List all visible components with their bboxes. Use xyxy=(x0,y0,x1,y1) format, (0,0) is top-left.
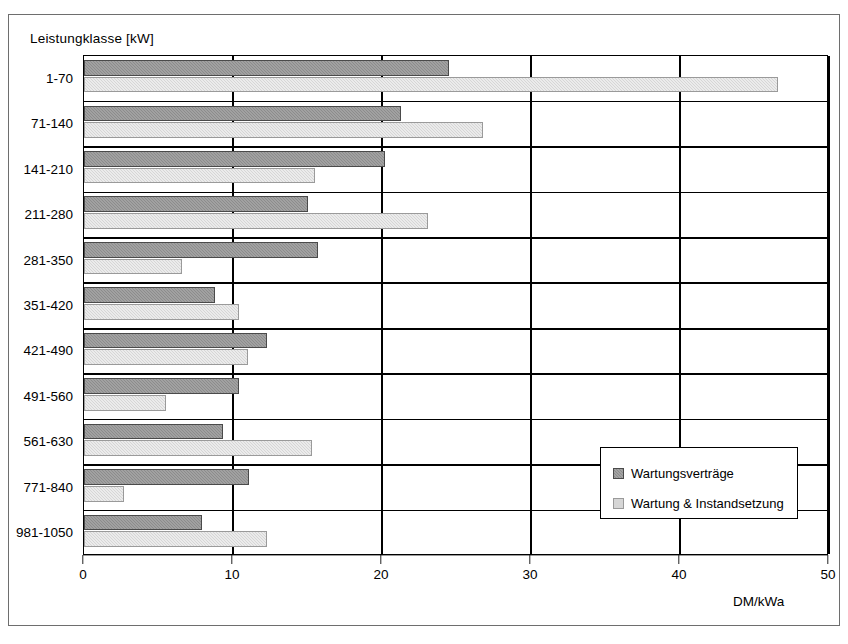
x-axis-unit-label: DM/kWa xyxy=(733,594,784,609)
legend-item-wartungsvertraege: Wartungsverträge xyxy=(613,458,797,488)
x-axis-tick-label: 10 xyxy=(224,567,239,582)
chart-figure: Leistungklasse [kW] 1-7071-140141-210211… xyxy=(0,0,848,644)
y-axis-tick-label: 351-420 xyxy=(23,298,73,313)
y-axis-tick-label: 561-630 xyxy=(23,434,73,449)
x-axis: 01020304050 xyxy=(83,555,828,556)
chart-row xyxy=(84,329,827,374)
bar-wartung-instandsetzung xyxy=(84,259,182,275)
bar-wartung-instandsetzung xyxy=(84,213,428,229)
chart-row xyxy=(84,238,827,283)
bar-wartungsvertraege xyxy=(84,424,223,440)
bar-wartung-instandsetzung xyxy=(84,440,312,456)
legend-swatch-light-icon xyxy=(613,498,624,509)
y-axis-tick-label: 491-560 xyxy=(23,388,73,403)
legend-item-wartung-instandsetzung: Wartung & Instandsetzung xyxy=(613,488,797,518)
x-axis-tick xyxy=(678,555,679,564)
bar-wartungsvertraege xyxy=(84,287,215,303)
chart-row xyxy=(84,147,827,192)
y-axis-tick-label: 981-1050 xyxy=(16,525,73,540)
bar-wartung-instandsetzung xyxy=(84,77,778,93)
y-axis-tick-label: 211-280 xyxy=(24,207,73,222)
y-axis-tick-label: 71-140 xyxy=(31,116,73,131)
y-axis-tick-label: 421-490 xyxy=(23,343,73,358)
bar-wartungsvertraege xyxy=(84,333,267,349)
bar-wartungsvertraege xyxy=(84,378,239,394)
legend-label: Wartung & Instandsetzung xyxy=(631,496,784,511)
legend-label: Wartungsverträge xyxy=(631,466,734,481)
bar-wartung-instandsetzung xyxy=(84,304,239,320)
bar-wartungsvertraege xyxy=(84,151,385,167)
bar-wartung-instandsetzung xyxy=(84,168,315,184)
x-axis-tick xyxy=(827,555,828,564)
bar-wartungsvertraege xyxy=(84,106,401,122)
bar-wartung-instandsetzung xyxy=(84,486,124,502)
bar-wartung-instandsetzung xyxy=(84,531,267,547)
x-axis-tick-label: 50 xyxy=(820,567,835,582)
x-axis-tick xyxy=(231,555,232,564)
x-axis-tick xyxy=(380,555,381,564)
bar-wartungsvertraege xyxy=(84,60,449,76)
gridline xyxy=(828,56,830,554)
chart-row xyxy=(84,56,827,101)
chart-row xyxy=(84,283,827,328)
chart-row xyxy=(84,192,827,237)
y-axis-tick-label: 1-70 xyxy=(46,70,73,85)
y-axis-caption: Leistungklasse [kW] xyxy=(30,31,154,46)
x-axis-tick xyxy=(82,555,83,564)
y-axis-tick-label: 771-840 xyxy=(23,479,73,494)
y-axis-tick-labels: 1-7071-140141-210211-280281-350351-42042… xyxy=(0,55,79,555)
x-axis-tick-label: 30 xyxy=(522,567,537,582)
bar-wartungsvertraege xyxy=(84,196,308,212)
bar-wartung-instandsetzung xyxy=(84,122,483,138)
bar-wartungsvertraege xyxy=(84,469,249,485)
legend-swatch-dark-icon xyxy=(613,468,624,479)
y-axis-tick-label: 281-350 xyxy=(23,252,73,267)
y-axis-tick-label: 141-210 xyxy=(23,161,73,176)
bar-wartung-instandsetzung xyxy=(84,395,166,411)
chart-row xyxy=(84,101,827,146)
x-axis-tick-label: 20 xyxy=(373,567,388,582)
x-axis-tick-label: 0 xyxy=(79,567,87,582)
chart-row xyxy=(84,374,827,419)
x-axis-tick xyxy=(529,555,530,564)
bar-wartung-instandsetzung xyxy=(84,349,248,365)
bar-wartungsvertraege xyxy=(84,242,318,258)
x-axis-tick-label: 40 xyxy=(671,567,686,582)
bar-wartungsvertraege xyxy=(84,515,202,531)
chart-legend: Wartungsverträge Wartung & Instandsetzun… xyxy=(600,447,798,519)
